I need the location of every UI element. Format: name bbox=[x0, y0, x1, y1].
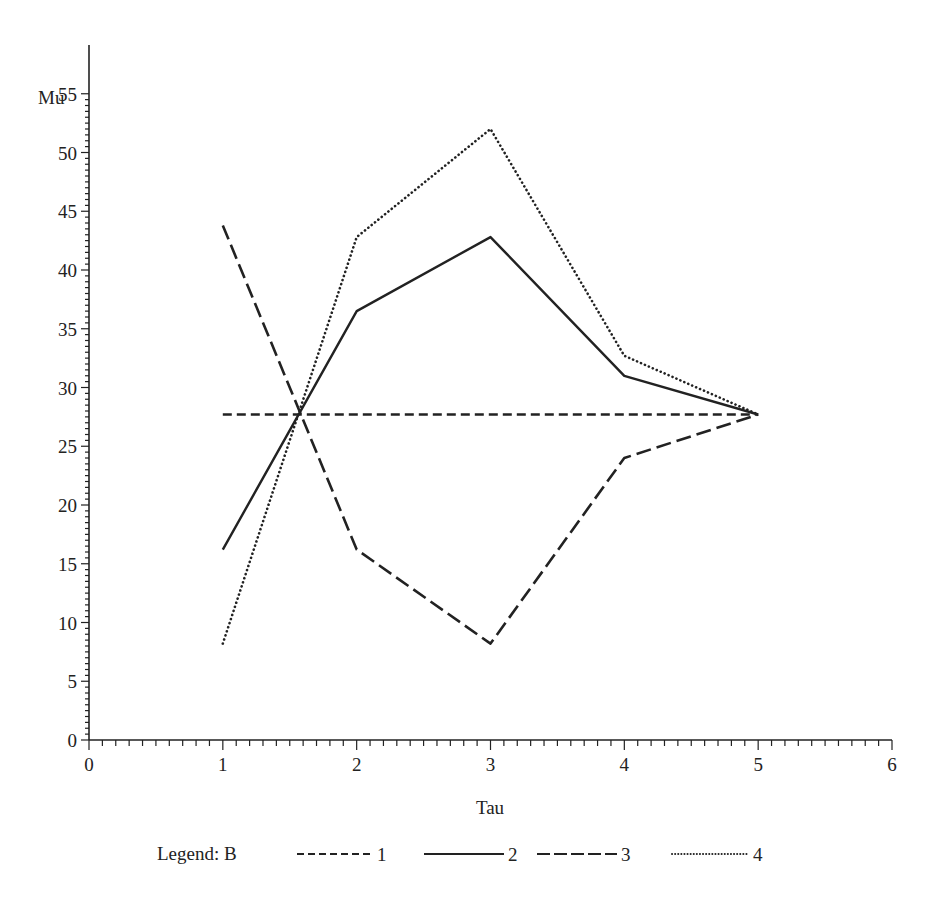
line-chart: 0510152025303540455055 0123456 Mu Tau Le… bbox=[0, 0, 934, 906]
y-tick-label: 25 bbox=[58, 436, 77, 457]
y-tick-label: 5 bbox=[68, 671, 78, 692]
series-4-line bbox=[223, 129, 758, 644]
y-tick-label: 50 bbox=[58, 143, 77, 164]
y-tick-label: 35 bbox=[58, 319, 77, 340]
legend-title: Legend: B bbox=[157, 843, 237, 864]
legend: Legend: B 1234 bbox=[157, 843, 763, 865]
x-tick-label: 2 bbox=[352, 754, 362, 775]
legend-label-2: 2 bbox=[508, 844, 518, 865]
series-3-line bbox=[223, 225, 758, 643]
series-2-line bbox=[223, 237, 758, 549]
legend-label-1: 1 bbox=[377, 844, 387, 865]
plot-area bbox=[223, 129, 758, 644]
legend-label-3: 3 bbox=[621, 844, 631, 865]
x-tick-label: 5 bbox=[753, 754, 763, 775]
y-tick-label: 20 bbox=[58, 495, 77, 516]
y-tick-label: 10 bbox=[58, 613, 77, 634]
x-tick-label: 0 bbox=[84, 754, 94, 775]
y-tick-label: 45 bbox=[58, 201, 77, 222]
y-tick-label: 0 bbox=[68, 730, 78, 751]
y-axis: 0510152025303540455055 bbox=[58, 45, 89, 751]
y-tick-label: 30 bbox=[58, 378, 77, 399]
y-axis-title: Mu bbox=[38, 87, 65, 108]
x-axis: 0123456 bbox=[84, 740, 897, 775]
legend-label-4: 4 bbox=[753, 844, 763, 865]
x-tick-label: 6 bbox=[887, 754, 897, 775]
x-tick-label: 3 bbox=[486, 754, 496, 775]
x-axis-title: Tau bbox=[476, 797, 505, 818]
x-tick-label: 4 bbox=[620, 754, 630, 775]
y-tick-label: 40 bbox=[58, 260, 77, 281]
y-tick-label: 15 bbox=[58, 554, 77, 575]
x-tick-label: 1 bbox=[218, 754, 228, 775]
